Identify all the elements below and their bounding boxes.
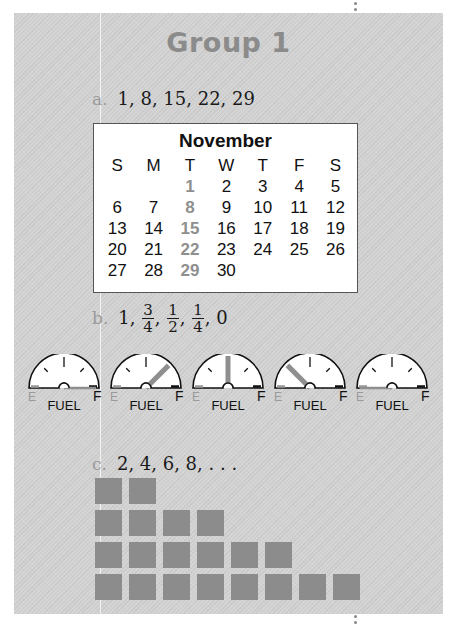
denominator: 4	[142, 319, 154, 335]
gauge-dial-icon: E F FUEL	[272, 354, 350, 414]
svg-text:FUEL: FUEL	[211, 398, 244, 413]
fuel-gauge: E F FUEL	[190, 354, 268, 414]
svg-text:F: F	[257, 388, 266, 404]
denominator: 2	[167, 319, 179, 335]
group-panel: Group 1 a.1, 8, 15, 22, 29 November SMTW…	[14, 13, 443, 614]
gauge-dial-icon: E F FUEL	[108, 354, 186, 414]
svg-text:E: E	[274, 390, 282, 404]
fuel-gauge: E F FUEL	[354, 354, 432, 414]
fraction-three-quarters: 34	[142, 302, 154, 335]
svg-text:F: F	[175, 388, 184, 404]
calendar-day: 21	[135, 239, 171, 260]
gauge-dial-icon: E F FUEL	[354, 354, 432, 414]
calendar-day: 30	[208, 260, 244, 281]
square-block	[163, 542, 190, 568]
square-block	[265, 574, 292, 600]
fraction-quarter: 14	[192, 302, 204, 335]
svg-text:F: F	[339, 388, 348, 404]
square-block	[129, 478, 156, 504]
denominator: 4	[192, 319, 204, 335]
calendar-day: 17	[245, 218, 281, 239]
item-a-sequence: 1, 8, 15, 22, 29	[118, 88, 255, 109]
calendar-day	[281, 260, 317, 281]
svg-text:E: E	[28, 390, 36, 404]
numerator: 3	[142, 302, 154, 319]
square-block	[95, 510, 122, 536]
gauge-dial-icon: E F FUEL	[26, 354, 104, 414]
calendar-day: 4	[281, 176, 317, 197]
page-marker-bottom	[354, 615, 358, 627]
square-block	[265, 542, 292, 568]
calendar-day: 9	[208, 197, 244, 218]
weekday-header: SMTWTFS	[99, 155, 354, 176]
calendar-day: 22	[172, 239, 208, 260]
fraction-half: 12	[167, 302, 179, 335]
calendar-grid: SMTWTFS123456789101112131415161718192021…	[99, 155, 354, 281]
item-c: c.2, 4, 6, 8, . . .	[92, 453, 237, 474]
calendar-day: 24	[245, 239, 281, 260]
square-block	[129, 542, 156, 568]
calendar-day: 8	[172, 197, 208, 218]
calendar-day: 29	[172, 260, 208, 281]
calendar-day	[245, 260, 281, 281]
svg-text:F: F	[93, 388, 102, 404]
calendar-week: 6789101112	[99, 197, 354, 218]
group-title: Group 1	[14, 27, 443, 58]
svg-text:E: E	[356, 390, 364, 404]
calendar-day: 26	[317, 239, 353, 260]
square-block	[197, 574, 224, 600]
fuel-gauge: E F FUEL	[108, 354, 186, 414]
calendar-day: 27	[99, 260, 135, 281]
item-a: a.1, 8, 15, 22, 29	[92, 88, 255, 109]
calendar-day: 20	[99, 239, 135, 260]
weekday-label: M	[135, 155, 171, 176]
square-block	[163, 510, 190, 536]
item-c-sequence: 2, 4, 6, 8, . . .	[117, 453, 237, 474]
square-block	[231, 574, 258, 600]
calendar-day: 28	[135, 260, 171, 281]
calendar-day: 16	[208, 218, 244, 239]
calendar-day: 14	[135, 218, 171, 239]
calendar-day: 19	[317, 218, 353, 239]
calendar-day: 6	[99, 197, 135, 218]
square-block	[333, 574, 360, 600]
numerator: 1	[167, 302, 179, 319]
calendar: November SMTWTFS123456789101112131415161…	[93, 123, 358, 293]
calendar-day: 13	[99, 218, 135, 239]
item-b: b.1, 34, 12, 14, 0	[92, 302, 228, 335]
calendar-day: 11	[281, 197, 317, 218]
calendar-day: 1	[172, 176, 208, 197]
svg-text:E: E	[110, 390, 118, 404]
square-block	[163, 574, 190, 600]
calendar-month: November	[94, 130, 357, 152]
calendar-day: 10	[245, 197, 281, 218]
item-a-label: a.	[92, 89, 108, 109]
calendar-day	[99, 176, 135, 197]
fuel-gauge: E F FUEL	[272, 354, 350, 414]
calendar-week: 27282930	[99, 260, 354, 281]
fuel-gauge: E F FUEL	[26, 354, 104, 414]
calendar-day: 15	[172, 218, 208, 239]
calendar-week: 20212223242526	[99, 239, 354, 260]
calendar-day: 12	[317, 197, 353, 218]
weekday-label: T	[245, 155, 281, 176]
svg-text:FUEL: FUEL	[129, 398, 162, 413]
weekday-label: S	[99, 155, 135, 176]
svg-text:FUEL: FUEL	[375, 398, 408, 413]
weekday-label: T	[172, 155, 208, 176]
square-block	[197, 542, 224, 568]
seq-term-1: 1,	[118, 307, 135, 328]
square-block	[299, 574, 326, 600]
calendar-day: 2	[208, 176, 244, 197]
svg-text:FUEL: FUEL	[47, 398, 80, 413]
calendar-day: 5	[317, 176, 353, 197]
weekday-label: F	[281, 155, 317, 176]
square-block	[231, 542, 258, 568]
fuel-gauges: E F FUEL E F FUEL	[26, 354, 446, 414]
square-block	[129, 574, 156, 600]
calendar-day: 7	[135, 197, 171, 218]
square-block	[95, 574, 122, 600]
square-block	[197, 510, 224, 536]
seq-term-last: 0	[216, 307, 227, 328]
weekday-label: S	[317, 155, 353, 176]
